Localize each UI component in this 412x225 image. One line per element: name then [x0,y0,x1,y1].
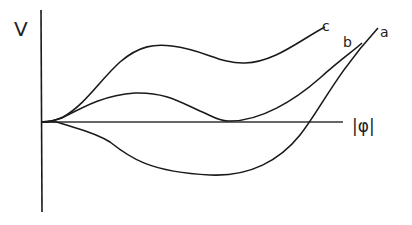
curve-a-label: a [380,24,389,40]
x-axis-label: |φ| [352,116,375,136]
y-axis-label: V [14,17,28,41]
curve-c-label: c [322,18,330,34]
curve-b [41,43,362,122]
curve-b-label: b [343,34,352,50]
y-axis [41,10,42,212]
potential-diagram: V |φ| a b c [0,0,412,225]
curve-a [41,28,378,175]
